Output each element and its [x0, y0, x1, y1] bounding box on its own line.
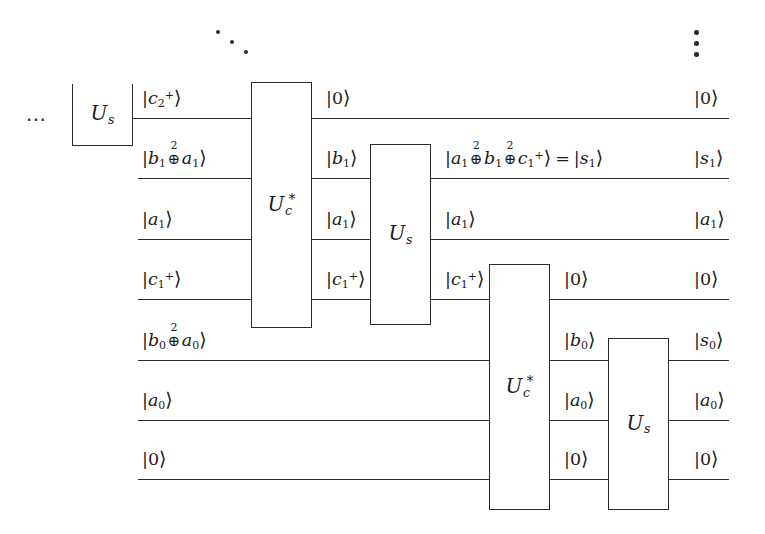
wire-c1-carry: [138, 299, 729, 300]
ket-c1-plus-input: |c1+⟩: [141, 269, 182, 290]
wire-c2-carry: [132, 118, 729, 119]
ket-b0-mid: |b0⟩: [563, 330, 597, 351]
ket-c1-plus-mid: |c1+⟩: [325, 269, 366, 290]
ket-out-zero-3: |0⟩: [693, 269, 719, 289]
gate-us-left-label: Us: [91, 103, 115, 126]
ket-b0-xor-a0: |b02⊕a0⟩: [141, 330, 208, 351]
ket-a1-mid: |a1⟩: [325, 209, 358, 230]
ket-out-s1: |s1⟩: [693, 148, 724, 169]
ket-zero-after-uc2: |0⟩: [563, 449, 589, 469]
ket-a1-input: |a1⟩: [141, 209, 174, 230]
gate-us-2-label: Us: [627, 413, 651, 436]
ket-a1-after-us1: |a1⟩: [444, 209, 477, 230]
gate-uc-star-2-label: Uc*: [506, 374, 534, 399]
gate-us-1-label: Us: [389, 223, 413, 246]
ket-out-s0: |s0⟩: [693, 330, 724, 351]
ket-zero-after-us1: |0⟩: [563, 269, 589, 289]
ellipsis-left-icon: ⋯: [26, 107, 48, 131]
gate-us-left[interactable]: Us: [72, 84, 133, 146]
gate-uc-star-1-label: Uc*: [268, 192, 296, 217]
gate-us-2[interactable]: Us: [608, 338, 669, 510]
ket-a0-input: |a0⟩: [141, 390, 174, 411]
ket-out-zero-0: |0⟩: [693, 88, 719, 108]
ket-c2-plus: |c2+⟩: [141, 88, 182, 109]
gate-us-1[interactable]: Us: [370, 144, 431, 325]
ket-b1-mid: |b1⟩: [325, 148, 359, 169]
wire-a1: [138, 239, 729, 240]
ket-a0-mid: |a0⟩: [563, 390, 596, 411]
gate-uc-star-1[interactable]: Uc*: [251, 82, 312, 328]
ellipsis-diagonal-icon: [216, 30, 260, 60]
wire-b1-sum: [138, 178, 729, 179]
ket-c1-plus-after-us1: |c1+⟩: [444, 269, 485, 290]
ket-out-zero-6: |0⟩: [693, 449, 719, 469]
gate-uc-star-2[interactable]: Uc*: [489, 264, 550, 510]
ellipsis-vertical-icon: [694, 30, 700, 60]
ket-out-a1: |a1⟩: [693, 209, 726, 230]
ket-b1-xor-a1: |b12⊕a1⟩: [141, 148, 208, 169]
ket-out-a0: |a0⟩: [693, 390, 726, 411]
ket-zero-after-uc1: |0⟩: [325, 88, 351, 108]
circuit-diagram-canvas: ⋯ Us Uc* Us Uc*: [0, 0, 765, 534]
ket-s1-expression: |a12⊕b12⊕c1+⟩=|s1⟩: [444, 148, 604, 169]
ket-zero-input: |0⟩: [141, 449, 167, 469]
